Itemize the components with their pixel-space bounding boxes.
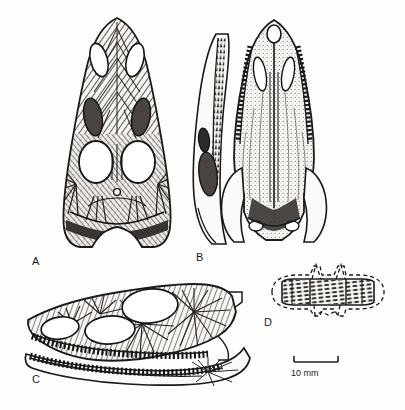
panel-label-d: D: [264, 316, 272, 328]
panel-a-dorsal-skull: [52, 14, 182, 252]
panel-label-a: A: [32, 255, 40, 267]
scale-bar: [292, 355, 340, 365]
panel-d-osteoderm: [258, 262, 398, 320]
scale-bar-label: 10 mm: [291, 368, 319, 378]
panel-b-palatal-skull: [182, 12, 352, 252]
panel-label-c: C: [32, 373, 40, 385]
figure-plate: A: [0, 0, 405, 410]
panel-c-lateral-skull: [22, 268, 257, 388]
panel-label-b: B: [196, 251, 204, 263]
